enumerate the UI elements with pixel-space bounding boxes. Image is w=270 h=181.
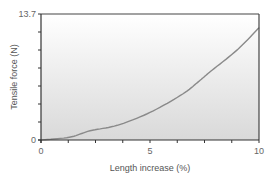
plot-area (41, 14, 259, 140)
y-axis-title: Tensile force (N) (9, 44, 19, 110)
chart: 13.7 0 0 5 10 Length increase (%) Tensil… (0, 0, 270, 181)
x-tick-0: 0 (38, 146, 43, 156)
x-axis-title: Length increase (%) (110, 163, 191, 173)
x-tick-5: 5 (147, 146, 152, 156)
x-tick-10: 10 (254, 146, 264, 156)
y-tick-max: 13.7 (18, 9, 36, 19)
y-tick-zero: 0 (31, 135, 36, 145)
